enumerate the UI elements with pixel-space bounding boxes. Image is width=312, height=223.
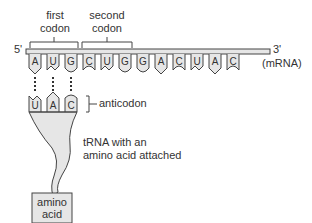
mrna-base: A (212, 56, 219, 67)
three-prime-label: 3' (273, 43, 281, 56)
mrna-base: U (103, 56, 110, 67)
anticodon-base: A (50, 100, 57, 111)
anticodon-bracket (86, 96, 97, 112)
mrna-base: G (139, 56, 147, 67)
mrna-base: A (158, 56, 165, 67)
mrna-backbone (26, 49, 270, 54)
mrna-base: G (121, 56, 129, 67)
mrna-label: (mRNA) (262, 57, 302, 70)
trna-body (29, 112, 77, 196)
second-codon-label-1: second (87, 9, 127, 22)
anticodon-base: C (67, 100, 74, 111)
mrna-base: G (67, 56, 75, 67)
first-codon-label-2: codon (36, 22, 74, 35)
amino-acid-label-2: acid (32, 208, 72, 221)
first-codon-label-1: first (40, 9, 70, 22)
mrna-bases (29, 54, 239, 74)
first-codon-bracket (30, 37, 78, 48)
anticodon-base: U (31, 100, 38, 111)
mrna-base: U (49, 56, 56, 67)
mrna-base: U (193, 56, 200, 67)
mrna-base: C (175, 56, 182, 67)
trna-label-2: amino acid attached (83, 149, 181, 162)
mrna-base: A (32, 56, 39, 67)
mrna-base: C (85, 56, 92, 67)
second-codon-bracket (82, 37, 132, 48)
anticodon-label: anticodon (99, 97, 147, 110)
base-pair-dots (35, 77, 71, 93)
trna-label-1: tRNA with an (83, 136, 147, 149)
mrna-base: C (229, 56, 236, 67)
second-codon-label-2: codon (88, 22, 126, 35)
five-prime-label: 5' (14, 43, 22, 56)
